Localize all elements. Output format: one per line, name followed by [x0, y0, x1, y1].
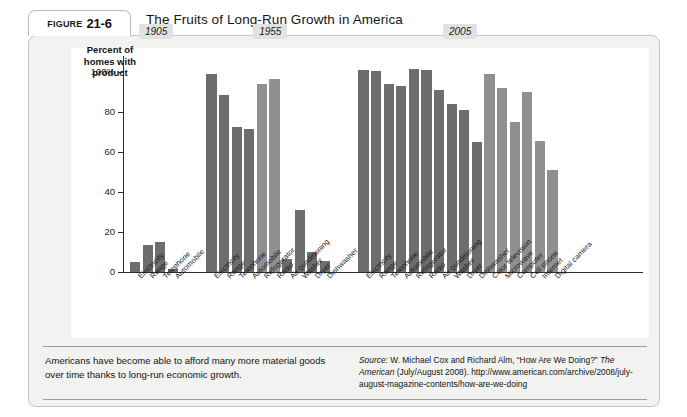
- y-tick-mark: [118, 232, 123, 233]
- source-part2: (July/August 2008). http://www.american.…: [359, 367, 633, 389]
- y-tick-mark: [118, 192, 123, 193]
- bar: [371, 71, 381, 272]
- figure-body: Percent of homes with product 100%806040…: [28, 35, 660, 407]
- source-part1: W. Michael Cox and Richard Alm, “How Are…: [388, 355, 600, 365]
- figure-screenshot: Figure 21-6 The Fruits of Long-Run Growt…: [0, 0, 687, 417]
- bar: [219, 95, 229, 272]
- bar: [484, 74, 494, 272]
- y-tick-mark: [118, 72, 123, 73]
- year-badge-2005: 2005: [443, 24, 477, 39]
- y-tick-label: 40: [71, 186, 115, 197]
- figure-source: Source: W. Michael Cox and Richard Alm, …: [359, 354, 649, 390]
- source-label: Source:: [359, 355, 388, 365]
- x-axis-labels: ElectricityRangeTelephoneAutomobileElect…: [124, 274, 644, 340]
- bar: [269, 79, 279, 272]
- bar: [244, 129, 254, 272]
- bars-container: [124, 56, 644, 272]
- bar: [447, 104, 457, 272]
- bar: [434, 90, 444, 272]
- y-tick-label: 60: [71, 146, 115, 157]
- bar: [497, 88, 507, 272]
- bar: [257, 84, 267, 272]
- bar: [409, 69, 419, 272]
- bar: [358, 70, 368, 272]
- figure-tab-label: Figure: [47, 19, 82, 29]
- y-tick-label: 0: [71, 266, 115, 277]
- bar: [232, 127, 242, 272]
- figure-tab-number: 21-6: [86, 16, 111, 31]
- bar: [396, 86, 406, 272]
- chart-plot-area: Percent of homes with product 100%806040…: [71, 48, 649, 338]
- bar: [206, 74, 216, 272]
- bar: [421, 70, 431, 272]
- year-badge-1905: 1905: [139, 24, 173, 39]
- y-tick-label: 80: [71, 106, 115, 117]
- y-tick-mark: [118, 272, 123, 273]
- figure-caption: Americans have become able to afford man…: [45, 354, 345, 382]
- figure-number-tab: Figure 21-6: [28, 10, 131, 36]
- y-tick-mark: [118, 112, 123, 113]
- y-axis-title-line1: Percent of: [69, 44, 151, 56]
- bar: [384, 84, 394, 272]
- year-badge-1955: 1955: [253, 24, 287, 39]
- y-tick-label: 100%: [71, 66, 115, 77]
- y-tick-label: 20: [71, 226, 115, 237]
- y-tick-mark: [118, 152, 123, 153]
- divider-bottom: [43, 399, 647, 400]
- divider-top: [43, 346, 647, 347]
